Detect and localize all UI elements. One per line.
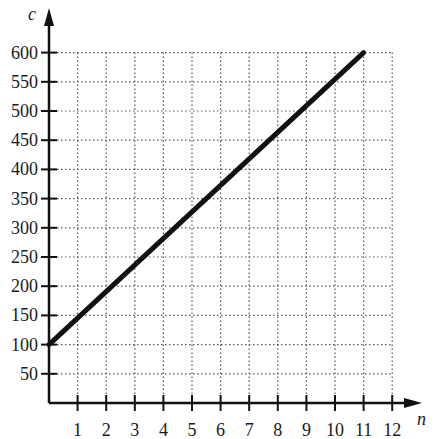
x-tick-label: 3 (130, 420, 139, 439)
y-axis-arrow-icon (44, 8, 54, 26)
data-line (49, 53, 364, 345)
x-tick-label: 8 (273, 420, 282, 439)
y-tick-label: 350 (11, 189, 38, 209)
x-tick-label: 9 (302, 420, 311, 439)
x-tick-label: 12 (383, 420, 401, 439)
x-tick-label: 4 (159, 420, 168, 439)
y-tick-label: 200 (11, 276, 38, 296)
y-tick-label: 400 (11, 159, 38, 179)
y-tick-label: 50 (20, 364, 38, 384)
x-axis-label: n (417, 409, 426, 429)
x-tick-label: 11 (355, 420, 372, 439)
axes (44, 8, 422, 408)
y-tick-label: 100 (11, 335, 38, 355)
y-tick-label: 150 (11, 305, 38, 325)
x-tick-label: 1 (73, 420, 82, 439)
grid (49, 53, 392, 403)
y-tick-label: 300 (11, 218, 38, 238)
x-tick-label: 6 (216, 420, 225, 439)
y-tick-label: 450 (11, 130, 38, 150)
x-tick-label: 2 (102, 420, 111, 439)
y-tick-label: 550 (11, 72, 38, 92)
y-tick-label: 600 (11, 43, 38, 63)
x-tick-label: 7 (245, 420, 254, 439)
x-tick-label: 5 (188, 420, 197, 439)
ticks: 1234567891011125010015020025030035040045… (11, 43, 401, 439)
y-tick-label: 500 (11, 101, 38, 121)
data-series (49, 53, 364, 345)
line-chart: 1234567891011125010015020025030035040045… (0, 0, 435, 439)
y-axis-label: c (28, 4, 36, 24)
x-tick-label: 10 (326, 420, 344, 439)
y-tick-label: 250 (11, 247, 38, 267)
x-axis-arrow-icon (404, 398, 422, 408)
